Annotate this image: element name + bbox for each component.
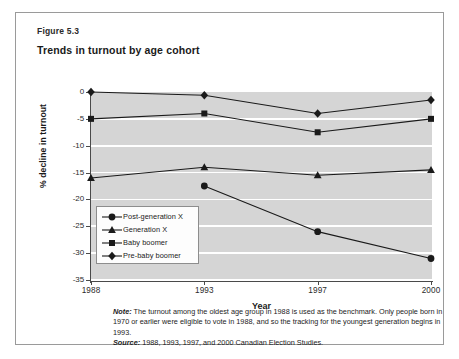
legend-item[interactable]: Baby boomer — [101, 236, 198, 249]
series-line — [91, 113, 431, 132]
data-point-marker — [87, 88, 95, 97]
series-line — [204, 186, 431, 259]
figure-source: Source: 1988, 1993, 1997, and 2000 Canad… — [113, 338, 443, 348]
series-line — [91, 167, 431, 178]
figure-footnotes: Note: The turnout among the oldest age g… — [113, 307, 443, 349]
chart-series-layer — [16, 13, 445, 346]
legend-label: Generation X — [123, 225, 167, 234]
legend-item[interactable]: Post-generation X — [101, 210, 198, 223]
data-point-marker — [200, 163, 208, 170]
series-line — [91, 92, 431, 113]
data-point-marker — [88, 116, 94, 122]
data-point-marker — [201, 110, 207, 116]
legend-marker-circle-icon — [101, 211, 123, 223]
data-point-marker — [428, 116, 434, 122]
y-axis-title: % decline in turnout — [38, 71, 48, 221]
data-point-marker — [427, 166, 435, 173]
note-label: Note: — [113, 307, 132, 316]
legend-label: Post-generation X — [123, 212, 183, 221]
legend-item[interactable]: Generation X — [101, 223, 198, 236]
source-text: 1988, 1993, 1997, and 2000 Canadian Elec… — [140, 338, 323, 347]
legend-label: Pre-baby boomer — [123, 251, 181, 260]
data-point-marker — [201, 183, 208, 190]
chart-legend: Post-generation XGeneration XBaby boomer… — [96, 206, 199, 264]
legend-item[interactable]: Pre-baby boomer — [101, 249, 198, 262]
legend-marker-triangle-icon — [101, 224, 123, 236]
figure-note: Note: The turnout among the oldest age g… — [113, 307, 443, 338]
legend-marker-square-icon — [101, 237, 123, 249]
data-point-marker — [201, 91, 209, 100]
note-text: The turnout among the oldest age group i… — [113, 307, 442, 337]
legend-marker-diamond-icon — [101, 250, 123, 262]
data-point-marker — [315, 129, 321, 135]
data-point-marker — [314, 109, 322, 118]
source-label: Source: — [113, 338, 140, 347]
legend-label: Baby boomer — [123, 238, 168, 247]
data-point-marker — [314, 228, 321, 235]
data-point-marker — [428, 255, 435, 262]
figure-frame: Figure 5.3 Trends in turnout by age coho… — [15, 12, 444, 345]
data-point-marker — [427, 96, 435, 105]
